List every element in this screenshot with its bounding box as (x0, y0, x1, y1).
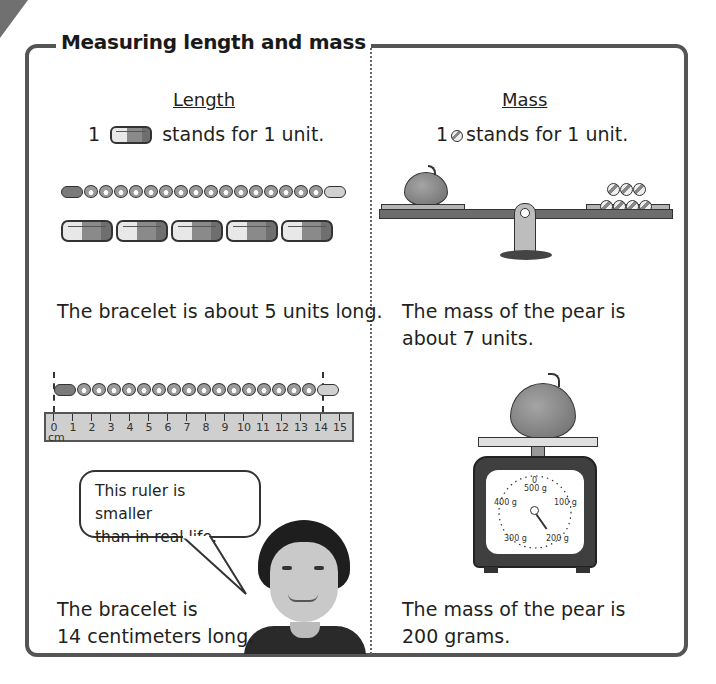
pear-stem (548, 373, 560, 387)
bead-icon (279, 185, 293, 198)
bracelet-chain (61, 185, 347, 198)
boy-photo (244, 520, 366, 654)
bead-icon (167, 383, 181, 396)
bead-icon (92, 383, 106, 396)
mass-grams-result-line2: 200 grams. (402, 623, 510, 650)
speech-bubble: This ruler is smaller than in real life. (79, 470, 261, 538)
block-unit-icon (61, 220, 113, 242)
length-unit-text: stands for 1 unit. (162, 123, 324, 145)
dial-hub (530, 506, 539, 515)
bead-icon (137, 383, 151, 396)
bracelet-clasp-icon (61, 186, 83, 198)
bead-icon (152, 383, 166, 396)
mass-units-result-line2: about 7 units. (402, 325, 534, 352)
scale-foot (576, 567, 590, 573)
bead-icon (219, 185, 233, 198)
bead-icon (294, 185, 308, 198)
bracelet-clasp-icon (54, 384, 76, 396)
ruler-tick-label: 10 (237, 421, 251, 434)
marble-icon (607, 183, 620, 196)
pear-icon (404, 172, 448, 206)
dial-label: 500 g (524, 484, 547, 493)
ruler-tick-label: 4 (127, 421, 134, 434)
bead-icon (257, 383, 271, 396)
length-units-result: The bracelet is about 5 units long. (57, 298, 383, 325)
dial-label: 200 g (546, 534, 569, 543)
kitchen-scale: 0 500 g 100 g 200 g 300 g 400 g (473, 456, 597, 568)
ruler-tick-label: 2 (89, 421, 96, 434)
scale-dial: 0 500 g 100 g 200 g 300 g 400 g (486, 470, 584, 554)
mass-unit-text: stands for 1 unit. (466, 123, 628, 145)
ruler-tick-label: 11 (256, 421, 270, 434)
centimeter-ruler: 0 1 2 3 4 5 6 7 8 9 10 11 12 13 14 15 cm (44, 412, 354, 442)
ruler-unit-label: cm (48, 431, 65, 444)
length-cm-result-line1: The bracelet is (57, 596, 198, 623)
scale-foot (484, 567, 498, 573)
speech-bubble-line: This ruler is smaller (95, 480, 245, 526)
ruler-tick-label: 6 (165, 421, 172, 434)
ruler-tick-label: 5 (146, 421, 153, 434)
marble-icon (633, 183, 646, 196)
mass-unit-number: 1 (436, 123, 448, 145)
bead-icon (302, 383, 316, 396)
bead-icon (234, 185, 248, 198)
ruler-tick-label: 15 (333, 421, 347, 434)
bead-icon (204, 185, 218, 198)
block-unit-icon (110, 126, 152, 144)
bead-icon (129, 185, 143, 198)
bracelet-chain-ruler (54, 383, 340, 396)
mass-grams-result-line1: The mass of the pear is (402, 596, 625, 623)
length-unit-number: 1 (88, 123, 100, 145)
bead-icon (77, 383, 91, 396)
bead-icon (309, 185, 323, 198)
ruler-tick-label: 13 (294, 421, 308, 434)
bead-icon (242, 383, 256, 396)
dial-label: 300 g (504, 534, 527, 543)
speech-bubble-tail (180, 536, 250, 596)
scale-platform (478, 437, 598, 447)
bead-icon (122, 383, 136, 396)
unit-block-row (61, 220, 333, 242)
bead-icon (287, 383, 301, 396)
balance-base (500, 250, 552, 260)
ruler-tick-label: 3 (108, 421, 115, 434)
bead-icon (114, 185, 128, 198)
ruler-tick-label: 9 (222, 421, 229, 434)
bead-icon (197, 383, 211, 396)
ruler-tick-label: 8 (203, 421, 210, 434)
ruler-tick-label: 12 (275, 421, 289, 434)
marble-unit-icon (451, 130, 463, 142)
bracelet-clasp-icon (324, 186, 346, 198)
block-unit-icon (171, 220, 223, 242)
marble-icon (620, 183, 633, 196)
bead-icon (99, 185, 113, 198)
bead-icon (159, 185, 173, 198)
bead-icon (144, 185, 158, 198)
bracelet-clasp-icon (317, 384, 339, 396)
bead-icon (272, 383, 286, 396)
block-unit-icon (116, 220, 168, 242)
bead-icon (249, 185, 263, 198)
corner-tab-decoration (0, 0, 28, 38)
bead-icon (174, 185, 188, 198)
mass-heading: Mass (502, 89, 547, 110)
bead-icon (182, 383, 196, 396)
balance-post (514, 203, 536, 253)
column-divider (370, 48, 372, 654)
bead-icon (264, 185, 278, 198)
mass-unit-legend: 1stands for 1 unit. (436, 121, 628, 148)
block-unit-icon (281, 220, 333, 242)
length-cm-result-line2: 14 centimeters long. (57, 623, 254, 650)
dial-label: 100 g (554, 498, 577, 507)
mass-units-result-line1: The mass of the pear is (402, 298, 625, 325)
bead-icon (189, 185, 203, 198)
bead-icon (107, 383, 121, 396)
bead-icon (227, 383, 241, 396)
length-heading: Length (173, 89, 235, 110)
block-unit-icon (226, 220, 278, 242)
bead-icon (212, 383, 226, 396)
bead-icon (84, 185, 98, 198)
ruler-tick-label: 14 (314, 421, 328, 434)
length-unit-legend: 1 stands for 1 unit. (88, 121, 324, 148)
ruler-tick-label: 7 (184, 421, 191, 434)
